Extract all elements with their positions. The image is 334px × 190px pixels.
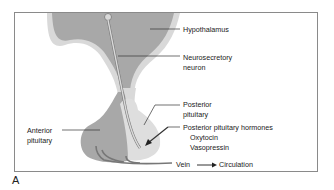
panel-label: A [12,174,19,186]
label-posterior-2: pituitary [183,110,208,119]
label-hormones-title: Posterior pituitary hormones [183,123,273,132]
label-anterior-1: Anterior [27,126,52,135]
neuron-cell-body [105,14,112,21]
label-posterior-1: Posterior [183,100,212,109]
label-anterior-2: pituitary [27,136,52,145]
label-circulation: Circulation [219,160,253,169]
circulation-arrowhead [212,163,217,168]
label-neurosecretory-2: neuron [183,63,205,72]
label-vasopressin: Vasopressin [190,143,229,152]
label-hypothalamus: Hypothalamus [183,25,229,34]
pituitary-diagram [0,0,334,190]
label-oxytocin: Oxytocin [190,133,218,142]
label-neurosecretory-1: Neurosecretory [183,53,232,62]
label-vein: Vein [176,160,190,169]
